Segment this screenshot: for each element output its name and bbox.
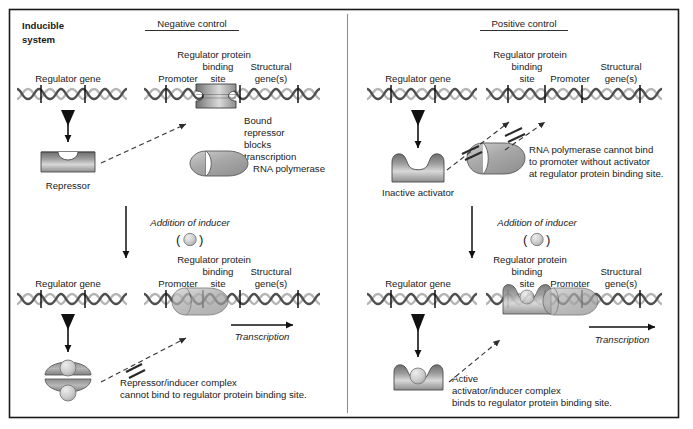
figure-border: [10, 10, 679, 418]
panel-heading-negative: Negative control: [145, 18, 239, 31]
neg-top-binding-site-label-1: Regulator protein: [177, 49, 251, 60]
pos-top-binding-site-label-3: site: [520, 73, 535, 84]
pos-bot-transcription-label: Transcription: [595, 334, 650, 345]
pos-top-structural-gene-label-2: gene(s): [605, 73, 638, 84]
neg-top-bound-note-1: Bound: [244, 115, 272, 126]
neg-bot-binding-site-label-2: binding: [203, 266, 234, 277]
pos-bot-note-1: Active: [452, 373, 478, 384]
neg-top-structural-gene-label-1: Structural: [250, 61, 291, 72]
neg-top-bound-note-2: repressor: [244, 127, 285, 138]
pos-bot-active-activator-complex: [394, 365, 443, 390]
neg-bot-rna-polymerase-bound: [172, 288, 228, 315]
pos-inducer-paren-open: (: [523, 232, 528, 247]
neg-inducer-step-label: Addition of inducer: [149, 217, 230, 228]
pos-bot-binding-site-label-2: binding: [512, 266, 543, 277]
pos-inducer-symbol: ( ): [523, 232, 550, 247]
pos-bot-structural-gene-label-1: Structural: [600, 266, 641, 277]
pos-bot-binding-site-label-1: Regulator protein: [493, 254, 567, 265]
neg-top-repressor-label: Repressor: [46, 180, 91, 191]
neg-top-bound-note-4: transcription: [244, 151, 296, 162]
neg-top-polymerase-label: RNA polymerase: [253, 163, 325, 174]
panel-heading-positive: Positive control: [480, 18, 568, 31]
neg-bot-binding-site-label-1: Regulator protein: [177, 254, 251, 265]
pos-bot-rna-polymerase-bound: [543, 288, 598, 315]
pos-bot-note-3: binds to regulator protein binding site.: [452, 397, 612, 408]
figure-title-line1: Inducible: [22, 20, 64, 31]
neg-inducer-paren-close: ): [199, 232, 203, 247]
pos-top-regulator-gene-label: Regulator gene: [385, 73, 451, 84]
neg-bot-transcription-label: Transcription: [235, 331, 290, 342]
figure-title-line2: system: [22, 34, 55, 45]
inducible-system-figure: Inducible system Negative control Positi…: [0, 0, 693, 429]
neg-bot-structural-gene-label-1: Structural: [250, 266, 291, 277]
neg-top-promoter-label: Promoter: [158, 73, 198, 84]
pos-top-note-1: RNA polymerase cannot bind: [529, 144, 653, 155]
pos-top-promoter-label: Promoter: [550, 73, 590, 84]
neg-inducer-symbol: ( ): [176, 232, 203, 247]
neg-bot-regulator-gene-label: Regulator gene: [35, 278, 101, 289]
neg-bot-structural-gene-label-2: gene(s): [255, 278, 288, 289]
pos-top-activator-label: Inactive activator: [382, 187, 455, 198]
neg-top-bound-note-3: blocks: [244, 139, 271, 150]
neg-top-structural-gene-label-2: gene(s): [255, 73, 288, 84]
neg-bot-note-1: Repressor/inducer complex: [120, 377, 237, 388]
pos-bot-note-2: activator/inducer complex: [452, 385, 561, 396]
pos-bot-regulator-gene-label: Regulator gene: [385, 278, 451, 289]
pos-top-structural-gene-label-1: Structural: [600, 61, 641, 72]
neg-bot-binding-site-label-3: site: [211, 278, 226, 289]
neg-bot-note-2: cannot bind to regulator protein binding…: [120, 389, 307, 400]
positive-control-heading: Positive control: [491, 18, 556, 29]
negative-control-heading: Negative control: [157, 18, 226, 29]
pos-bot-promoter-label: Promoter: [550, 278, 590, 289]
pos-top-note-3: at regulator protein binding site.: [529, 168, 663, 179]
neg-top-rna-polymerase-shape: [190, 151, 248, 176]
pos-top-note-2: to promoter without activator: [529, 156, 651, 167]
neg-bot-promoter-label: Promoter: [158, 278, 198, 289]
neg-top-binding-site-label-3: site: [211, 73, 226, 84]
pos-top-binding-site-label-2: binding: [512, 61, 543, 72]
pos-top-binding-site-label-1: Regulator protein: [493, 49, 567, 60]
neg-inducer-paren-open: (: [176, 232, 181, 247]
pos-inducer-paren-close: ): [546, 232, 550, 247]
neg-top-binding-site-label-2: binding: [203, 61, 234, 72]
neg-top-regulator-gene-label: Regulator gene: [35, 73, 101, 84]
neg-top-repressor-shape: [41, 152, 95, 172]
pos-bot-structural-gene-label-2: gene(s): [605, 278, 638, 289]
pos-bot-binding-site-label-3: site: [520, 278, 535, 289]
diagram-canvas: Inducible system Negative control Positi…: [0, 0, 693, 429]
pos-inducer-step-label: Addition of inducer: [496, 217, 577, 228]
